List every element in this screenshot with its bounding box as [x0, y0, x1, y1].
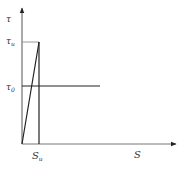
- su-label: Su: [32, 150, 43, 162]
- y-axis-label: τ: [6, 14, 12, 24]
- loading-curve: [22, 42, 39, 144]
- stress-slip-diagram: τ τu τ0 Su S: [0, 0, 187, 169]
- tau-0-label: τ0: [6, 82, 15, 93]
- x-axis-label: S: [134, 149, 141, 160]
- tau-u-label: τu: [6, 36, 15, 47]
